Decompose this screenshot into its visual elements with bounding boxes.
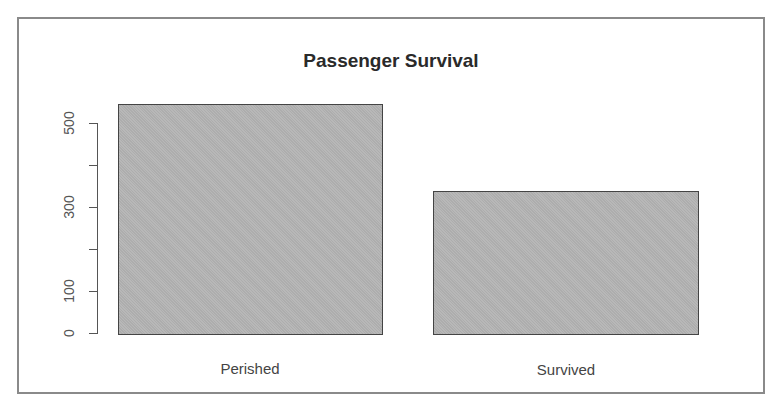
bar-perished xyxy=(118,104,383,335)
y-label-100: 100 xyxy=(61,271,77,311)
x-label-perished: Perished xyxy=(150,360,350,377)
y-tick-500 xyxy=(89,123,97,124)
y-tick-300 xyxy=(89,207,97,208)
y-label-500: 500 xyxy=(61,103,77,143)
y-tick-400 xyxy=(89,165,97,166)
y-tick-200 xyxy=(89,249,97,250)
bar-survived xyxy=(433,191,699,335)
y-axis-line xyxy=(97,123,98,334)
chart-title: Passenger Survival xyxy=(0,50,782,72)
y-tick-100 xyxy=(89,291,97,292)
y-label-0: 0 xyxy=(61,313,77,353)
x-label-survived: Survived xyxy=(466,361,666,378)
y-tick-0 xyxy=(89,333,97,334)
y-label-300: 300 xyxy=(61,187,77,227)
